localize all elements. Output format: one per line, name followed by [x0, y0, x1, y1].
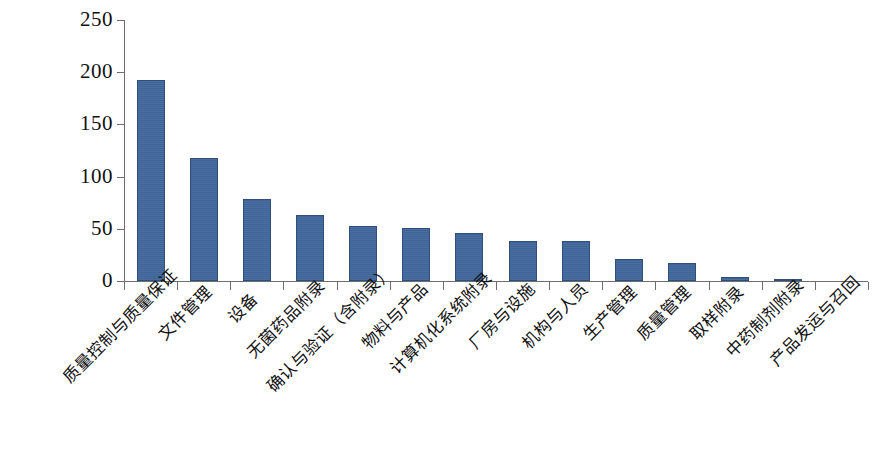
x-axis-category-labels: 质量控制与质量保证文件管理设备无菌药品附录确认与验证（含附录）物料与产品计算机化… [0, 281, 874, 463]
bar [509, 241, 537, 281]
bar-chart: 250200150100500 质量控制与质量保证文件管理设备无菌药品附录确认与… [0, 0, 874, 463]
x-axis-category-label: 计算机化系统附录 [387, 269, 495, 377]
x-axis-category-label: 质量管理 [634, 283, 694, 343]
x-axis-category-label: 设备 [225, 290, 261, 326]
bar [243, 199, 271, 281]
x-axis-category-label-text: 计算机化系统附录 [387, 269, 495, 377]
bar [668, 263, 696, 281]
x-axis-category-label-text: 设备 [225, 290, 261, 326]
x-axis-category-label-text: 质量管理 [634, 283, 694, 343]
bar [296, 215, 324, 281]
bar [562, 241, 590, 281]
bar [402, 228, 430, 281]
bar [615, 259, 643, 281]
bar [137, 80, 165, 281]
bar [190, 158, 218, 281]
